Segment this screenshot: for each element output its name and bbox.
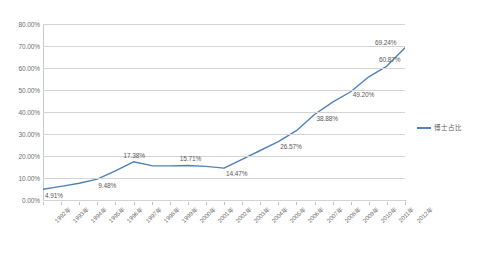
data-point-label: 69.24% xyxy=(375,39,396,46)
x-axis-tick-label: 2000年 xyxy=(198,206,217,225)
data-point-label: 4.91% xyxy=(45,192,63,199)
gridline xyxy=(43,156,405,157)
y-axis-tick-label: 50.00% xyxy=(0,87,40,94)
data-point-label: 60.87% xyxy=(379,56,400,63)
x-axis-tick-mark xyxy=(206,202,207,205)
gridline xyxy=(43,178,405,179)
legend-series-label: 博士占比 xyxy=(434,124,462,132)
x-axis-tick-label: 2008年 xyxy=(343,206,362,225)
x-axis-tick-mark xyxy=(115,202,116,205)
gridline xyxy=(43,68,405,69)
x-axis-tick-mark xyxy=(79,202,80,205)
gridline xyxy=(43,90,405,91)
x-axis-tick-label: 2002年 xyxy=(235,206,254,225)
x-axis-tick-label: 2004年 xyxy=(271,206,290,225)
x-axis-tick-mark xyxy=(260,202,261,205)
x-axis-tick-mark xyxy=(61,202,62,205)
x-axis-tick-label: 1993年 xyxy=(72,206,91,225)
y-axis-tick-label: 60.00% xyxy=(0,65,40,72)
line-chart: 0.00%10.00%20.00%30.00%40.00%50.00%60.00… xyxy=(0,0,480,255)
x-axis-tick-mark xyxy=(405,202,406,205)
x-axis-tick-mark xyxy=(134,202,135,205)
data-point-label: 38.88% xyxy=(317,115,338,122)
data-point-label: 14.47% xyxy=(226,170,247,177)
x-axis-tick-label: 2001年 xyxy=(217,206,236,225)
y-axis-tick-labels: 0.00%10.00%20.00%30.00%40.00%50.00%60.00… xyxy=(0,24,40,200)
x-axis-tick-mark xyxy=(224,202,225,205)
x-axis-tick-label: 2012年 xyxy=(416,206,435,225)
x-axis-tick-label: 1998年 xyxy=(162,206,181,225)
x-axis-tick-label: 1996年 xyxy=(126,206,145,225)
x-axis-tick-label: 2005年 xyxy=(289,206,308,225)
data-point-label: 9.48% xyxy=(98,182,116,189)
data-point-label: 26.57% xyxy=(280,143,301,150)
x-axis-tick-mark xyxy=(296,202,297,205)
y-axis-tick-label: 0.00% xyxy=(0,197,40,204)
x-axis-tick-mark xyxy=(278,202,279,205)
x-axis-tick-label: 1999年 xyxy=(180,206,199,225)
x-axis-tick-mark xyxy=(351,202,352,205)
x-axis-tick-mark xyxy=(315,202,316,205)
gridline xyxy=(43,200,405,201)
y-axis-tick-label: 70.00% xyxy=(0,43,40,50)
x-axis-tick-label: 2003年 xyxy=(253,206,272,225)
x-axis-tick-label: 1995年 xyxy=(108,206,127,225)
x-axis-tick-label: 2006年 xyxy=(307,206,326,225)
x-axis-tick-mark xyxy=(369,202,370,205)
gridline xyxy=(43,46,405,47)
y-axis-tick-label: 30.00% xyxy=(0,131,40,138)
x-axis-tick-mark xyxy=(152,202,153,205)
y-axis-tick-label: 10.00% xyxy=(0,175,40,182)
x-axis-tick-label: 1992年 xyxy=(54,206,73,225)
x-axis-tick-mark xyxy=(97,202,98,205)
y-axis-tick-label: 20.00% xyxy=(0,153,40,160)
x-axis-tick-label: 1994年 xyxy=(90,206,109,225)
gridline xyxy=(43,112,405,113)
x-axis-tick-label: 2007年 xyxy=(325,206,344,225)
y-axis-tick-label: 80.00% xyxy=(0,21,40,28)
data-point-label: 15.71% xyxy=(180,155,201,162)
x-axis-tick-label: 2011年 xyxy=(397,206,415,224)
data-point-label: 17.38% xyxy=(124,152,145,159)
x-axis-tick-labels: 1992年1993年1994年1995年1996年1997年1998年1999年… xyxy=(43,202,405,252)
x-axis-tick-mark xyxy=(242,202,243,205)
x-axis-tick-mark xyxy=(333,202,334,205)
legend-line-swatch-icon xyxy=(417,127,431,129)
y-axis-tick-label: 40.00% xyxy=(0,109,40,116)
x-axis-tick-label: 2010年 xyxy=(379,206,398,225)
plot-area: 4.91%9.48%17.38%15.71%14.47%26.57%38.88%… xyxy=(43,24,405,200)
gridline xyxy=(43,24,405,25)
x-axis-tick-mark xyxy=(188,202,189,205)
x-axis-tick-mark xyxy=(43,202,44,205)
x-axis-tick-label: 1997年 xyxy=(144,206,163,225)
chart-legend[interactable]: 博士占比 xyxy=(417,124,462,132)
gridline xyxy=(43,134,405,135)
x-axis-tick-mark xyxy=(170,202,171,205)
x-axis-tick-label: 2009年 xyxy=(361,206,380,225)
x-axis-tick-mark xyxy=(387,202,388,205)
data-point-label: 49.20% xyxy=(353,91,374,98)
